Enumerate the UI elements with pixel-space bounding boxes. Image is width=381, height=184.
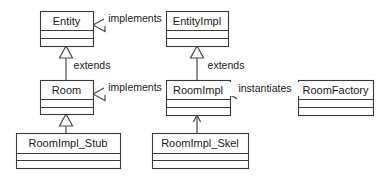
generalization-arrowhead-icon (191, 46, 204, 58)
class-box-entity_impl[interactable]: EntityImpl (167, 12, 229, 47)
class-name-label: EntityImpl (173, 15, 221, 27)
diagram-canvas: EntityEntityImplRoomRoomImplRoomFactoryR… (0, 0, 381, 184)
classes-layer: EntityEntityImplRoomRoomImplRoomFactoryR… (17, 12, 374, 169)
relationship-rel-stub-extends-room (60, 114, 73, 133)
class-name-label: Entity (53, 15, 81, 27)
relationship-label-text: implements (108, 12, 162, 24)
class-box-room_impl_stub[interactable]: RoomImpl_Stub (17, 134, 121, 169)
class-box-room[interactable]: Room (41, 81, 94, 115)
relationship-label-rel-roomimpl-implements-room: implements (104, 81, 166, 95)
relationship-label-rel-entityimpl-implements-entity: implements (104, 12, 166, 26)
relationship-label-rel-roomfactory-instantiates-roomimpl: instantiates (228, 82, 301, 96)
generalization-arrowhead-icon (60, 114, 73, 126)
class-box-room_impl[interactable]: RoomImpl (167, 81, 231, 116)
class-name-label: RoomImpl (173, 84, 223, 96)
relationship-label-text: implements (108, 81, 162, 93)
relationship-label-text: instantiates (238, 82, 291, 94)
relationship-rel-roomimpl-extends-entityimpl (191, 46, 204, 80)
relationship-label-rel-roomimpl-extends-entityimpl: extends (203, 59, 248, 73)
class-name-label: RoomImpl_Skel (161, 137, 239, 149)
class-name-label: RoomImpl_Stub (29, 137, 108, 149)
generalization-arrowhead-icon (93, 88, 105, 101)
class-box-entity[interactable]: Entity (41, 12, 94, 47)
generalization-arrowhead-icon (93, 19, 105, 32)
class-box-room_impl_skel[interactable]: RoomImpl_Skel (153, 134, 249, 169)
relationship-rel-skel-uses-roomimpl (193, 115, 200, 133)
generalization-arrowhead-icon (60, 46, 73, 58)
uml-class-diagram: EntityEntityImplRoomRoomImplRoomFactoryR… (0, 0, 381, 184)
class-name-label: RoomFactory (302, 84, 369, 96)
class-name-label: Room (52, 84, 81, 96)
relationship-label-text: extends (74, 59, 111, 71)
class-box-room_factory[interactable]: RoomFactory (299, 81, 374, 116)
relationship-label-rel-room-extends-entity: extends (69, 59, 114, 73)
relationship-label-text: extends (208, 59, 245, 71)
